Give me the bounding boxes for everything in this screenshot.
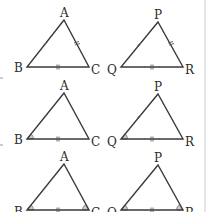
vertex-label-q: Q: [107, 206, 117, 212]
vertex-label-q: Q: [107, 135, 117, 149]
row-sas: A B C P Q R: [14, 79, 195, 149]
vertex-label-c: C: [91, 206, 100, 212]
vertex-label-a: A: [59, 150, 69, 164]
vertex-label-q: Q: [107, 63, 117, 77]
triangle-outline: [121, 165, 183, 210]
triangle-pqr-sas: P Q R: [107, 80, 195, 149]
vertex-label-a: A: [59, 6, 69, 20]
vertex-label-r: R: [185, 63, 195, 77]
triangle-pqr-sss: P Q R: [107, 8, 195, 77]
triangle-outline: [27, 164, 89, 210]
congruence-diagram: A B C P Q R A B C: [0, 0, 210, 212]
vertex-label-r: R: [185, 206, 195, 212]
vertex-label-p: P: [154, 8, 162, 22]
triangle-abc-asa: A B C: [14, 150, 100, 212]
vertex-label-a: A: [59, 79, 69, 93]
triangle-outline: [121, 94, 183, 139]
triangle-abc-sas: A B C: [14, 79, 100, 149]
vertex-label-r: R: [185, 135, 195, 149]
triangle-pqr-asa: P Q R: [107, 151, 195, 212]
vertex-label-c: C: [91, 135, 100, 149]
vertex-label-b: B: [14, 205, 23, 212]
triangle-outline: [27, 93, 89, 139]
row-asa: A B C P Q R: [14, 150, 195, 212]
triangle-outline: [121, 22, 183, 67]
triangle-abc-sss: A B C: [14, 6, 100, 77]
vertex-label-b: B: [14, 61, 23, 75]
vertex-label-p: P: [154, 151, 162, 165]
vertex-label-p: P: [154, 80, 162, 94]
vertex-label-b: B: [14, 133, 23, 147]
vertex-label-c: C: [91, 63, 100, 77]
row-sss: A B C P Q R: [14, 6, 195, 77]
